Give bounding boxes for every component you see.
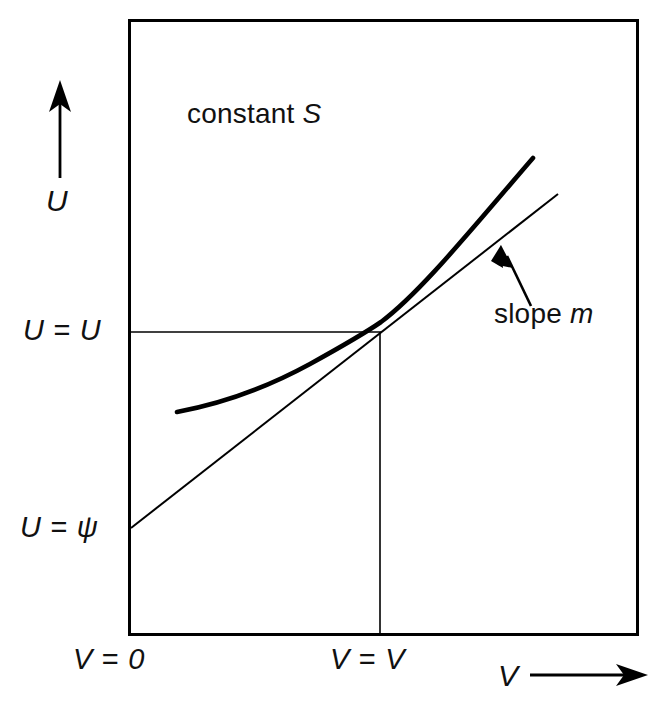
figure-container: constant S U U = U U = ψ V = 0 V = V V s… xyxy=(0,0,670,720)
u-value-tick-label: U = U xyxy=(23,316,101,345)
slope-pointer-arrow xyxy=(491,245,531,306)
constant-entropy-annotation: constant S xyxy=(187,100,321,128)
x-axis-label: V xyxy=(498,661,518,691)
slope-annotation-label: slope m xyxy=(494,300,593,328)
thermodynamics-diagram xyxy=(0,0,670,720)
right-arrow-icon xyxy=(530,664,648,686)
v-value-tick-label: V = V xyxy=(330,645,405,674)
v-origin-tick-label: V = 0 xyxy=(73,645,145,674)
tangent-line xyxy=(131,194,558,528)
up-arrow-icon xyxy=(49,80,71,178)
y-axis-label: U xyxy=(46,186,68,216)
internal-energy-curve xyxy=(177,158,533,412)
u-intercept-tick-label: U = ψ xyxy=(20,513,98,542)
